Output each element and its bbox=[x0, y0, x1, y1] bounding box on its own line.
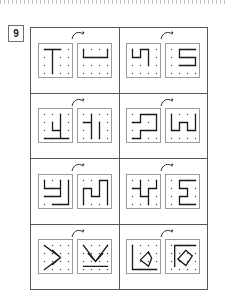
figure-tile-right[interactable] bbox=[77, 108, 112, 143]
figure-tile-right[interactable] bbox=[165, 239, 200, 274]
figure-tile-left[interactable] bbox=[38, 239, 73, 274]
puzzle-cell-r3c2[interactable] bbox=[120, 159, 208, 224]
figure-tile-left[interactable] bbox=[126, 239, 161, 274]
worksheet-page: 9 bbox=[0, 0, 225, 306]
puzzle-cell-r1c1[interactable] bbox=[31, 28, 120, 93]
puzzle-row bbox=[31, 94, 207, 160]
puzzle-cell-r2c2[interactable] bbox=[120, 94, 208, 159]
rotation-arrow-icon bbox=[71, 30, 87, 43]
puzzle-cell-r4c1[interactable] bbox=[31, 225, 120, 290]
puzzle-cell-r2c1[interactable] bbox=[31, 94, 120, 159]
puzzle-row bbox=[31, 28, 207, 94]
figure-tile-right[interactable] bbox=[165, 43, 200, 78]
puzzle-grid bbox=[30, 27, 208, 290]
puzzle-cell-r4c2[interactable] bbox=[120, 225, 208, 290]
figure-tile-left[interactable] bbox=[38, 43, 73, 78]
figure-tile-left[interactable] bbox=[126, 43, 161, 78]
figure-tile-right[interactable] bbox=[165, 174, 200, 209]
puzzle-row bbox=[31, 159, 207, 225]
figure-tile-right[interactable] bbox=[165, 108, 200, 143]
figure-tile-right[interactable] bbox=[77, 174, 112, 209]
figure-tile-left[interactable] bbox=[38, 174, 73, 209]
figure-tile-left[interactable] bbox=[126, 108, 161, 143]
puzzle-row bbox=[31, 225, 207, 290]
figure-tile-left[interactable] bbox=[38, 108, 73, 143]
figure-tile-right[interactable] bbox=[77, 43, 112, 78]
puzzle-cell-r3c1[interactable] bbox=[31, 159, 120, 224]
puzzle-cell-r1c2[interactable] bbox=[120, 28, 208, 93]
figure-tile-right[interactable] bbox=[77, 239, 112, 274]
figure-tile-left[interactable] bbox=[126, 174, 161, 209]
rotation-arrow-icon bbox=[160, 30, 176, 43]
task-number-badge: 9 bbox=[8, 25, 24, 42]
